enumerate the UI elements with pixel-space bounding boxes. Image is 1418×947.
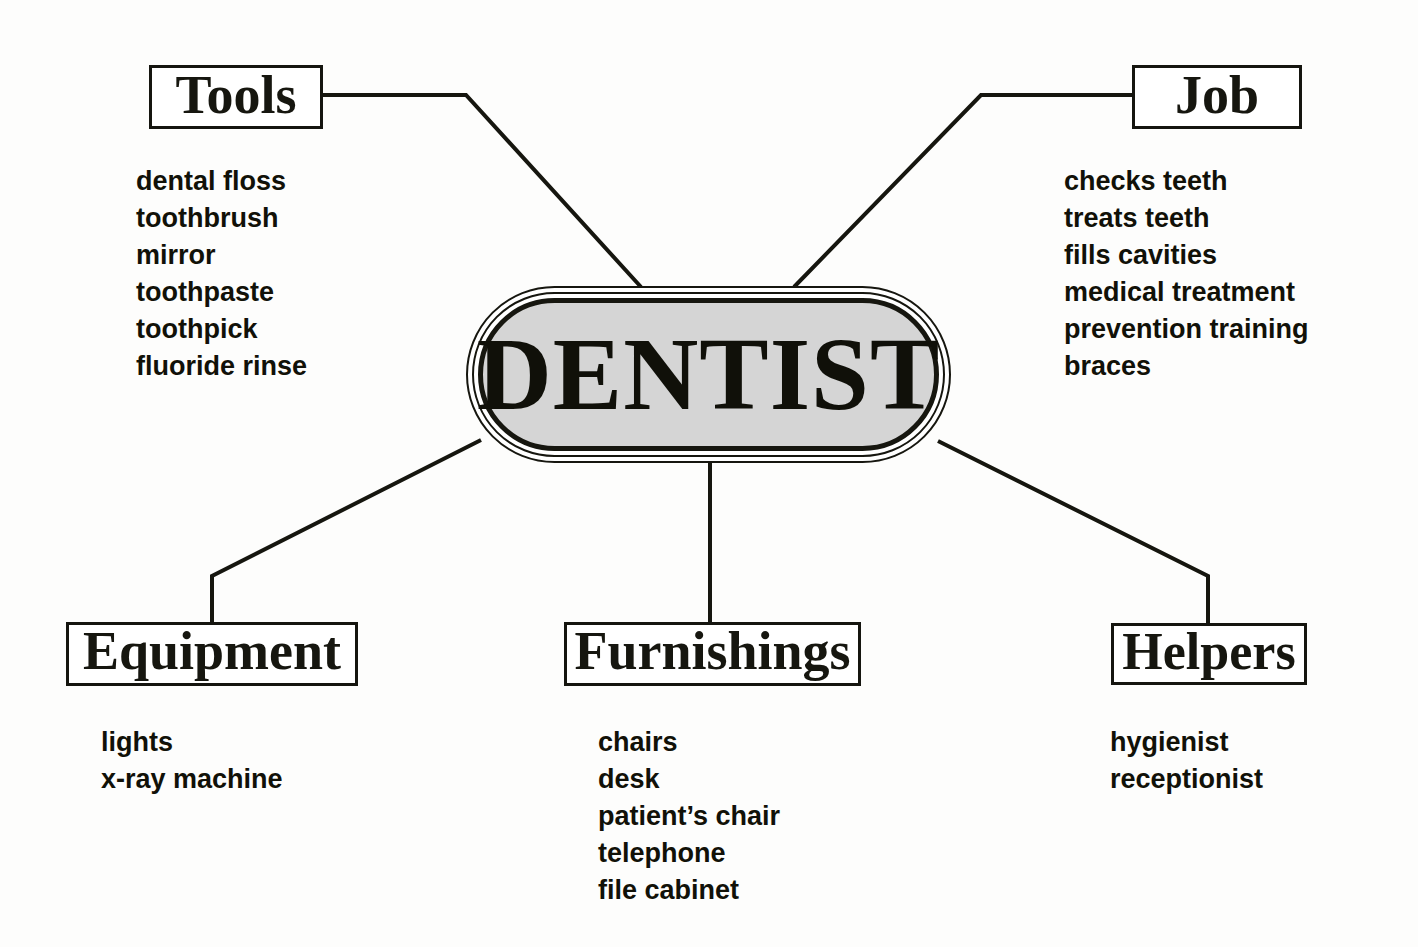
list-item: desk bbox=[598, 761, 780, 798]
category-label-equipment: Equipment bbox=[83, 624, 341, 678]
item-list-equipment: lights x-ray machine bbox=[101, 724, 283, 798]
list-item: chairs bbox=[598, 724, 780, 761]
list-item: fills cavities bbox=[1064, 237, 1309, 274]
category-box-job: Job bbox=[1132, 65, 1302, 129]
category-box-helpers: Helpers bbox=[1111, 623, 1307, 685]
item-list-tools: dental floss toothbrush mirror toothpast… bbox=[136, 163, 307, 385]
item-list-helpers: hygienist receptionist bbox=[1110, 724, 1263, 798]
category-label-furnishings: Furnishings bbox=[574, 624, 850, 678]
concept-web-diagram: DENTIST Tools dental floss toothbrush mi… bbox=[0, 0, 1418, 947]
connector-tools bbox=[323, 95, 641, 287]
list-item: toothpick bbox=[136, 311, 307, 348]
center-node-inner-ring: DENTIST bbox=[478, 298, 939, 451]
list-item: checks teeth bbox=[1064, 163, 1309, 200]
category-box-tools: Tools bbox=[149, 65, 323, 129]
list-item: treats teeth bbox=[1064, 200, 1309, 237]
list-item: dental floss bbox=[136, 163, 307, 200]
list-item: toothbrush bbox=[136, 200, 307, 237]
list-item: telephone bbox=[598, 835, 780, 872]
list-item: braces bbox=[1064, 348, 1309, 385]
connector-helpers bbox=[938, 441, 1208, 623]
category-label-helpers: Helpers bbox=[1122, 626, 1295, 678]
list-item: x-ray machine bbox=[101, 761, 283, 798]
item-list-job: checks teeth treats teeth fills cavities… bbox=[1064, 163, 1309, 385]
category-box-equipment: Equipment bbox=[66, 622, 358, 686]
list-item: hygienist bbox=[1110, 724, 1263, 761]
connector-equipment bbox=[212, 440, 481, 623]
category-label-job: Job bbox=[1175, 68, 1259, 122]
category-label-tools: Tools bbox=[175, 68, 296, 122]
category-box-furnishings: Furnishings bbox=[564, 622, 861, 686]
list-item: file cabinet bbox=[598, 872, 780, 909]
list-item: patient’s chair bbox=[598, 798, 780, 835]
list-item: toothpaste bbox=[136, 274, 307, 311]
item-list-furnishings: chairs desk patient’s chair telephone fi… bbox=[598, 724, 780, 909]
list-item: prevention training bbox=[1064, 311, 1309, 348]
center-node-label: DENTIST bbox=[477, 322, 941, 426]
list-item: mirror bbox=[136, 237, 307, 274]
list-item: receptionist bbox=[1110, 761, 1263, 798]
list-item: fluoride rinse bbox=[136, 348, 307, 385]
center-node-dentist: DENTIST bbox=[466, 286, 951, 463]
list-item: medical treatment bbox=[1064, 274, 1309, 311]
list-item: lights bbox=[101, 724, 283, 761]
